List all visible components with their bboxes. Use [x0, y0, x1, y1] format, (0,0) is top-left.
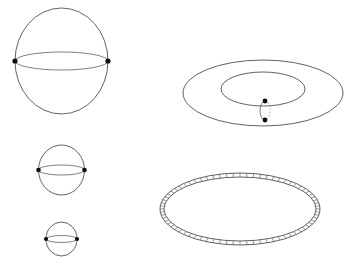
annulus-rung [272, 238, 274, 242]
annulus-rung [266, 175, 267, 179]
annulus-rung [219, 174, 220, 178]
annulus-rung [174, 227, 177, 229]
annulus-rung [183, 184, 186, 187]
annulus-rung [284, 235, 286, 238]
annulus-rung [163, 217, 167, 218]
annulus-rung [183, 232, 186, 235]
annulus-rung [315, 215, 319, 216]
annulus-rung [213, 239, 214, 243]
annulus-rung [315, 203, 319, 204]
sphere-large-outline [15, 8, 108, 114]
annulus-rung [200, 237, 202, 240]
annulus-rung [298, 230, 301, 233]
annulus-rung [165, 220, 169, 221]
torus-marked-point-1 [263, 118, 268, 123]
sphere-medium-equator-front [39, 165, 85, 170]
sphere-large-marked-point-1 [105, 58, 110, 63]
annulus-rung [278, 237, 280, 240]
annulus-rung [311, 197, 315, 198]
sphere-medium-outline [39, 145, 85, 195]
sphere-medium-equator-back [39, 170, 85, 175]
torus-meridian-back-arc [265, 101, 270, 120]
annulus-rung [289, 234, 292, 237]
torus-meridian-front-arc [260, 101, 265, 120]
annulus-rung [163, 200, 167, 201]
annulus-rung [260, 174, 261, 178]
annulus-inner-ellipse [164, 177, 316, 241]
topology-figure-canvas [0, 0, 356, 266]
annulus-rung [294, 232, 297, 235]
annulus-rung [294, 184, 297, 187]
annulus-rung [272, 176, 274, 180]
annulus-rung [226, 241, 227, 245]
annulus-rung [309, 194, 313, 196]
annulus-rung [253, 241, 254, 245]
annulus-rung [189, 181, 192, 184]
annulus-rung [194, 180, 196, 183]
annulus-rung [174, 188, 177, 190]
annulus-rung [165, 197, 169, 198]
annulus-rung [306, 191, 309, 193]
annulus-rung [313, 200, 317, 201]
annulus-rung [206, 176, 208, 180]
annulus-rung [266, 239, 267, 243]
annulus-rung [313, 217, 317, 218]
annulus-rung [179, 230, 182, 233]
sphere-small-equator-front [46, 236, 77, 239]
annulus-rung [168, 194, 172, 196]
sphere-small-equator-back [46, 239, 77, 243]
annulus-rung [298, 186, 301, 189]
annulus-rung [284, 180, 286, 183]
annulus-rung [161, 215, 165, 216]
sphere-small-outline [46, 222, 77, 256]
annulus-rung [168, 223, 172, 225]
sphere-large-equator-back [15, 61, 108, 70]
sphere-medium-marked-point-1 [82, 168, 87, 173]
annulus-rung [226, 174, 227, 178]
annulus-rung [289, 181, 292, 184]
figure-root [0, 0, 356, 266]
annulus-band-panel [160, 173, 320, 245]
annulus-rung [213, 175, 214, 179]
annulus-rung [200, 178, 202, 181]
annulus-rung [302, 227, 305, 229]
annulus-rung [194, 235, 196, 238]
annulus-rung [311, 220, 315, 221]
sphere-small-panel [44, 222, 79, 256]
torus-panel [183, 60, 343, 126]
annulus-rung [302, 188, 305, 190]
torus-marked-point-0 [263, 99, 268, 104]
annulus-rung [306, 225, 309, 227]
annulus-rung [179, 186, 182, 189]
sphere-medium-panel [36, 145, 87, 195]
sphere-small-marked-point-0 [44, 237, 48, 241]
sphere-small-marked-point-1 [75, 237, 79, 241]
annulus-rung [260, 240, 261, 244]
annulus-rung [171, 191, 174, 193]
sphere-medium-marked-point-0 [36, 168, 41, 173]
annulus-rung [171, 225, 174, 227]
sphere-large-marked-point-0 [12, 58, 17, 63]
annulus-rung [278, 178, 280, 181]
annulus-rung [219, 240, 220, 244]
torus-outer-ellipse [183, 60, 343, 126]
sphere-large-panel [12, 8, 110, 114]
annulus-rung [309, 223, 313, 225]
annulus-rung [161, 203, 165, 204]
sphere-large-equator-front [15, 52, 108, 61]
annulus-rung [253, 174, 254, 178]
annulus-rung [189, 234, 192, 237]
annulus-rung [206, 238, 208, 242]
